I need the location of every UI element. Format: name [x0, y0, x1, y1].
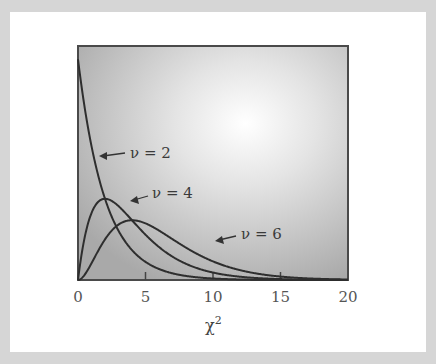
curve-label-nu2: ν = 2 — [130, 144, 171, 162]
x-tick-label: 15 — [271, 288, 290, 306]
x-tick-label: 20 — [338, 288, 357, 306]
x-tick-label: 0 — [73, 288, 83, 306]
chi-square-chart: ν = 2 ν = 4 ν = 6 05101520 χ2 — [0, 0, 436, 364]
x-tick-label: 10 — [203, 288, 222, 306]
plot-area — [78, 46, 348, 280]
curve-label-nu6: ν = 6 — [241, 225, 282, 243]
x-tick-label: 5 — [141, 288, 151, 306]
x-axis-title: χ2 — [205, 314, 222, 335]
curve-label-nu4: ν = 4 — [152, 184, 193, 202]
x-axis-tick-labels: 05101520 — [73, 288, 357, 306]
